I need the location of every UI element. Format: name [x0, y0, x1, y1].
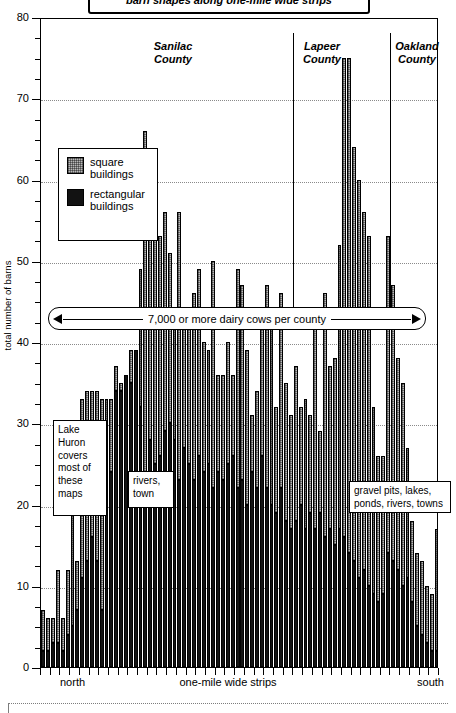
x-tick-32	[195, 668, 196, 675]
bar-strip-31	[187, 318, 191, 667]
bar-segment-rectangular	[415, 626, 419, 667]
bar-segment-square	[430, 594, 434, 651]
x-tick-44	[254, 668, 255, 675]
bar-segment-rectangular	[367, 586, 371, 667]
bar-segment-rectangular	[95, 561, 99, 667]
bar-segment-rectangular	[177, 480, 181, 667]
x-tick-8	[79, 668, 80, 675]
x-tick-80	[428, 668, 429, 675]
bar-segment-square	[289, 415, 293, 529]
bar-segment-rectangular	[221, 480, 225, 667]
bar-strip-46	[260, 318, 264, 667]
bar-segment-square	[308, 415, 312, 513]
y-tick-80	[32, 18, 40, 19]
x-tick-66	[360, 668, 361, 675]
bar-strip-63	[342, 58, 346, 667]
bar-strip-19	[129, 350, 133, 667]
bar-strip-55	[304, 399, 308, 667]
bar-strip-40	[231, 375, 235, 668]
bar-segment-rectangular	[362, 570, 366, 668]
bar-strip-2	[46, 618, 50, 667]
bar-segment-rectangular	[197, 456, 201, 667]
note-rivers-town: rivers,town	[128, 471, 174, 508]
bar-strip-49	[274, 407, 278, 667]
bar-segment-rectangular	[245, 505, 249, 668]
bar-segment-square	[376, 456, 380, 602]
x-tick-76	[409, 668, 410, 675]
county-divider-1	[293, 33, 294, 316]
county-label-sanilac: Sanilac County	[118, 40, 228, 65]
bar-segment-square	[299, 407, 303, 505]
bar-segment-square	[435, 529, 437, 651]
bar-segment-rectangular	[294, 521, 298, 667]
bar-strip-58	[318, 431, 322, 667]
bar-strip-64	[347, 58, 351, 667]
bar-segment-rectangular	[41, 651, 45, 667]
bar-segment-rectangular	[323, 537, 327, 667]
bar-segment-square	[260, 318, 264, 456]
county-divider-2	[390, 33, 391, 316]
bar-segment-square	[51, 618, 55, 642]
y-tick-label-0: 0	[3, 662, 29, 673]
square-buildings-swatch-icon	[67, 157, 84, 174]
page-footer-tick	[8, 703, 9, 713]
y-tick-label-10: 10	[3, 581, 29, 592]
bar-segment-square	[304, 399, 308, 529]
y-tick-label-70: 70	[3, 93, 29, 104]
note-lake-huron-text: LakeHuroncoversmost ofthesemaps	[58, 424, 91, 499]
x-tick-26	[166, 668, 167, 675]
bar-segment-square	[342, 58, 346, 537]
x-tick-72	[389, 668, 390, 675]
bar-strip-37	[216, 375, 220, 668]
x-tick-20	[137, 668, 138, 675]
x-tick-4	[59, 668, 60, 675]
bar-segment-square	[410, 521, 414, 602]
bar-segment-rectangular	[139, 407, 143, 667]
y-tick-40	[32, 343, 40, 344]
chart-title-box: barn shapes along one-mile wide strips	[88, 0, 370, 14]
bar-segment-rectangular	[279, 488, 283, 667]
bar-strip-72	[386, 236, 390, 667]
bar-segment-rectangular	[318, 513, 322, 667]
bar-strip-39	[226, 342, 230, 667]
bar-strip-54	[299, 407, 303, 667]
bar-strip-75	[401, 383, 405, 667]
bar-strip-15	[109, 399, 113, 667]
bar-segment-square	[41, 610, 45, 651]
bar-strip-67	[362, 212, 366, 667]
bar-segment-rectangular	[304, 529, 308, 667]
x-tick-18	[127, 668, 128, 675]
bar-segment-rectangular	[376, 602, 380, 667]
x-axis-label-south: south	[417, 676, 444, 688]
legend-label-rect-2: buildings	[90, 200, 133, 212]
bar-strip-79	[420, 561, 424, 667]
bar-strip-47	[265, 285, 269, 667]
bar-segment-square	[75, 561, 79, 610]
bar-strip-78	[415, 553, 419, 667]
bar-segment-rectangular	[401, 586, 405, 667]
x-tick-0	[40, 668, 41, 675]
y-tick-10	[32, 587, 40, 588]
bar-segment-square	[338, 245, 342, 529]
bar-segment-rectangular	[61, 651, 65, 667]
bar-strip-3	[51, 618, 55, 667]
x-tick-38	[224, 668, 225, 675]
bar-strip-34	[202, 342, 206, 667]
bar-strip-61	[333, 358, 337, 667]
x-tick-68	[370, 668, 371, 675]
legend-item-rectangular: rectangular buildings	[67, 188, 157, 213]
dairy-cows-annotation: 7,000 or more dairy cows per county	[48, 307, 426, 330]
plot-area	[40, 18, 438, 668]
bar-segment-rectangular	[226, 464, 230, 667]
bar-segment-rectangular	[192, 480, 196, 667]
bar-segment-square	[71, 505, 75, 627]
bar-segment-square	[318, 431, 322, 512]
x-tick-52	[292, 668, 293, 675]
bar-segment-square	[270, 318, 274, 505]
bar-strip-53	[294, 366, 298, 667]
bar-segment-rectangular	[270, 505, 274, 668]
bar-segment-rectangular	[134, 350, 138, 667]
bar-strip-30	[182, 318, 186, 667]
bar-segment-rectangular	[211, 488, 215, 667]
bar-strip-66	[357, 180, 361, 668]
